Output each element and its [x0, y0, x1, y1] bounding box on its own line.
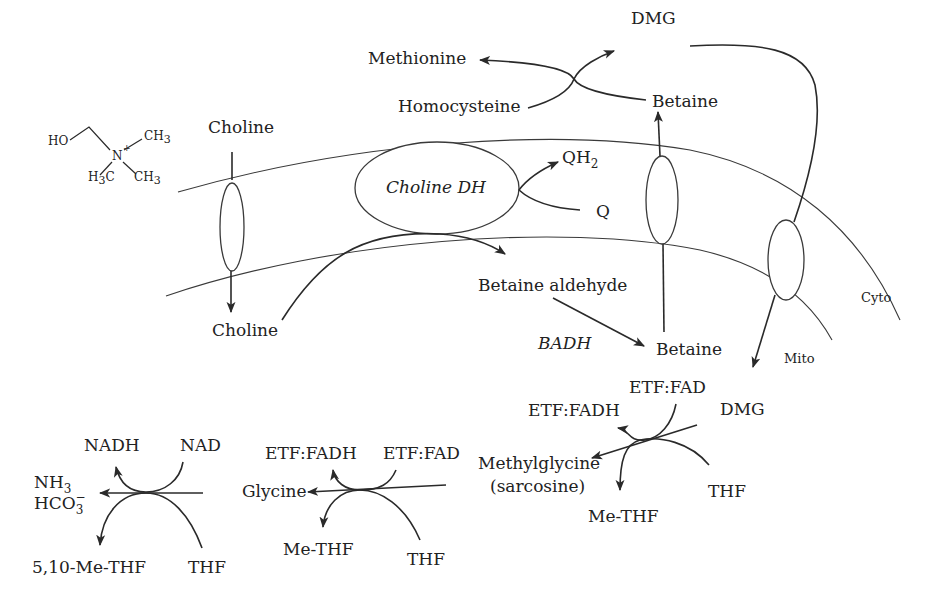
label-methionine: Methionine [368, 48, 466, 68]
label-etf-fad-2: ETF:FAD [383, 443, 460, 463]
label-glycine: Glycine [242, 481, 307, 501]
label-thf-2: THF [407, 549, 445, 569]
label-hco3: HCO3− [34, 490, 85, 517]
label-mito: Mito [784, 351, 815, 366]
structure-ch3-top: CH3 [144, 129, 171, 146]
label-betaine-mito: Betaine [656, 339, 722, 359]
structure-ho: HO [48, 134, 68, 148]
label-me-thf-1: Me-THF [588, 506, 659, 526]
label-methylglycine: Methylglycine [478, 453, 600, 473]
structure-h3c: H3C [88, 170, 115, 187]
label-betaine-cyto: Betaine [652, 91, 718, 111]
label-qh2: QH2 [562, 147, 598, 171]
choline-transporter [220, 183, 244, 271]
label-homocysteine: Homocysteine [398, 96, 521, 116]
label-thf-3: THF [188, 557, 226, 577]
structure-ch3-bottom: CH3 [134, 170, 161, 187]
label-nad: NAD [180, 435, 221, 455]
choline-structure: HO N + CH3 H3C CH3 [48, 127, 171, 187]
label-choline-inside: Choline [212, 320, 278, 340]
label-badh: BADH [537, 333, 592, 353]
label-etf-fadh-2: ETF:FADH [265, 443, 357, 463]
choline-pathway-diagram: HO N + CH3 H3C CH3 Choline Choline Choli… [0, 0, 936, 607]
label-dmg-cyto: DMG [631, 8, 676, 28]
label-cyto: Cyto [861, 290, 892, 305]
dmg-transporter [768, 220, 804, 300]
betaine-transporter [646, 156, 678, 244]
label-thf-1: THF [708, 481, 746, 501]
label-choline-outside: Choline [208, 117, 274, 137]
label-nadh: NADH [84, 435, 140, 455]
label-sarcosine: (sarcosine) [490, 476, 585, 496]
label-me-thf-2: Me-THF [283, 539, 354, 559]
label-q: Q [596, 201, 610, 221]
label-etf-fadh-1: ETF:FADH [528, 400, 620, 420]
label-betaine-aldehyde: Betaine aldehyde [478, 275, 627, 295]
label-me-thf-3: 5,10-Me-THF [32, 557, 146, 577]
label-choline-dh: Choline DH [386, 177, 487, 197]
structure-n: N [112, 149, 123, 163]
label-dmg-mito: DMG [720, 399, 765, 419]
label-etf-fad-1: ETF:FAD [629, 377, 706, 397]
